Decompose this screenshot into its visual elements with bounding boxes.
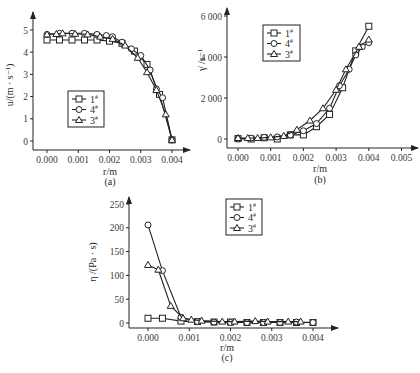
y-tick-label: 1 — [23, 114, 28, 124]
data-point-marker — [244, 320, 250, 326]
data-point-marker — [145, 222, 151, 228]
series-circle — [44, 30, 175, 143]
x-tick-label: 0.001 — [68, 155, 90, 165]
data-point-marker — [327, 111, 333, 117]
chart-caption: (a) — [104, 176, 115, 188]
data-point-marker — [167, 302, 174, 308]
x-tick-label: 0.000 — [227, 153, 249, 163]
data-point-marker — [327, 105, 333, 111]
series-square — [235, 23, 372, 142]
legend-marker — [234, 215, 240, 221]
x-tick-label: 0.001 — [260, 153, 282, 163]
data-point-marker — [211, 319, 217, 325]
series-circle — [235, 40, 372, 142]
legend-marker — [271, 41, 277, 47]
y-tick-label: 6 000 — [201, 12, 223, 22]
chart-b-shear-rate: 0.0000.0010.0020.0030.0040.00502 0004 00… — [196, 8, 418, 186]
legend-marker — [271, 30, 277, 36]
data-point-marker — [277, 320, 283, 326]
legend-marker — [76, 96, 82, 102]
x-tick-label: 0.003 — [261, 333, 283, 343]
y-axis-label: u/(m · s⁻¹) — [4, 64, 16, 107]
x-tick-label: 0.004 — [302, 333, 324, 343]
x-tick-label: 0.003 — [325, 153, 347, 163]
series-triangle — [145, 261, 305, 324]
x-tick-label: 0.004 — [358, 153, 380, 163]
y-tick-label: 100 — [110, 271, 125, 281]
data-point-marker — [159, 315, 165, 321]
y-tick-label: 0 — [23, 137, 28, 147]
x-tick-label: 0.005 — [391, 153, 413, 163]
series-circle — [145, 222, 316, 326]
x-tick-label: 0.003 — [130, 155, 152, 165]
legend: 1#4#3# — [263, 25, 300, 61]
y-tick-label: 50 — [115, 295, 125, 305]
y-tick-label: 3 — [23, 70, 28, 80]
x-tick-label: 0.002 — [293, 153, 315, 163]
data-point-marker — [145, 261, 152, 267]
data-point-marker — [366, 23, 372, 29]
x-tick-label: 0.001 — [179, 333, 201, 343]
data-point-marker — [252, 318, 259, 324]
data-point-marker — [82, 37, 88, 43]
y-tick-label: 150 — [110, 247, 125, 257]
series-triangle — [235, 36, 373, 140]
y-tick-label: 0 — [217, 135, 222, 145]
chart-a-velocity: 0.0000.0010.0020.0030.004012345r/m(a)u/(… — [4, 12, 190, 188]
x-tick-label: 0.000 — [36, 155, 58, 165]
data-point-marker — [310, 320, 316, 326]
data-point-marker — [300, 128, 306, 134]
legend: 1#4#3# — [68, 91, 104, 127]
legend-marker — [234, 204, 240, 210]
data-point-marker — [57, 37, 63, 43]
data-point-marker — [313, 121, 319, 127]
y-tick-label: 2 000 — [201, 94, 223, 104]
y-tick-label: 250 — [110, 200, 125, 210]
x-tick-label: 0.004 — [161, 155, 183, 165]
x-tick-label: 0.002 — [99, 155, 121, 165]
y-tick-label: 5 — [23, 26, 28, 36]
figure: 0.0000.0010.0020.0030.004012345r/m(a)u/(… — [0, 0, 420, 373]
data-point-marker — [145, 315, 151, 321]
legend: 1#4#3# — [226, 199, 262, 235]
data-point-marker — [365, 36, 372, 42]
y-tick-label: 0 — [119, 319, 124, 329]
y-axis-label: η /(Pa · s) — [87, 242, 99, 281]
x-axis-label: r/m — [313, 163, 327, 174]
data-point-marker — [293, 126, 300, 132]
legend-marker — [76, 107, 82, 113]
data-point-marker — [162, 111, 169, 117]
y-axis-label: γ̇ /s⁻¹ — [196, 49, 207, 72]
data-point-marker — [69, 37, 75, 43]
chart-caption: (c) — [221, 352, 232, 364]
y-tick-label: 4 — [23, 48, 28, 58]
chart-c-viscosity: 0.0000.0010.0020.0030.004050100150200250… — [87, 197, 338, 364]
y-tick-label: 2 — [23, 92, 28, 102]
chart-caption: (b) — [314, 174, 326, 186]
y-tick-label: 200 — [110, 223, 125, 233]
x-tick-label: 0.000 — [137, 333, 159, 343]
